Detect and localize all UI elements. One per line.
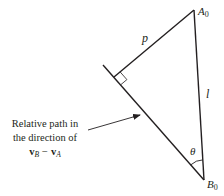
relative-path-line [103,65,204,180]
vertex-label-a0: A0 [197,5,209,19]
perpendicular-p-line [114,10,194,77]
line-l [194,10,204,180]
segment-label-p: p [141,31,148,45]
annotation-arrow [88,115,140,130]
annotation-line-1: Relative path in [12,118,79,129]
angle-label-theta: θ [190,145,196,157]
theta-arc [191,160,203,165]
annotation-line-2: the direction of [13,132,78,143]
relative-motion-diagram: A0 B0 p l θ Relative path in the directi… [0,0,224,196]
right-angle-marker [120,72,127,85]
annotation-vector-expression: vB−vA [29,146,61,159]
segment-label-l: l [206,87,210,101]
vertex-label-b0: B0 [207,178,218,192]
